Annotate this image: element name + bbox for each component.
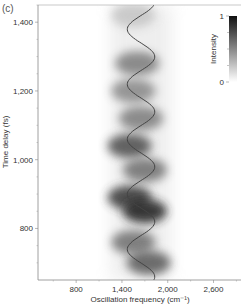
y-axis-title: Time delay (fs) (1, 115, 10, 168)
x-axis-title: Oscillation frequency (cm⁻¹) (90, 295, 189, 304)
intensity-blob (115, 51, 159, 75)
intensity-blob (111, 3, 155, 27)
y-axis-ticks: 8001,0001,2001,400 (13, 5, 38, 263)
y-tick-label: 1,200 (13, 87, 34, 96)
colorbar-title: Intensity (209, 34, 218, 64)
x-axis-ticks: 8001,4002,0002,600 (53, 280, 236, 294)
intensity-blob (127, 251, 171, 275)
x-tick-label: 1,400 (112, 285, 133, 294)
x-tick-label: 2,000 (158, 285, 179, 294)
colorbar-gradient (229, 16, 237, 82)
intensity-blob (108, 134, 152, 158)
intensity-blob (111, 230, 155, 254)
x-tick-label: 2,600 (204, 285, 225, 294)
heatmap-chart: (c) 8001,0001,2001,400 8001,4002,0002,60… (0, 0, 243, 307)
y-tick-label: 1,400 (13, 18, 34, 27)
intensity-blob (123, 199, 167, 223)
intensity-blob (119, 106, 163, 130)
panel-label: (c) (2, 3, 14, 14)
colorbar: 1 0 Intensity (209, 12, 237, 87)
colorbar-max-label: 1 (220, 12, 225, 21)
plot-area (108, 3, 172, 280)
x-tick-label: 800 (69, 285, 83, 294)
y-tick-label: 1,000 (13, 156, 34, 165)
colorbar-min-label: 0 (220, 78, 225, 87)
y-tick-label: 800 (20, 224, 34, 233)
intensity-blob (111, 79, 155, 103)
intensity-blobs (108, 3, 172, 280)
